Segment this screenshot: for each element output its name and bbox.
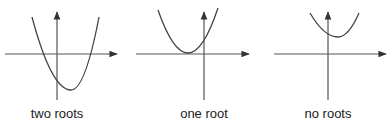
parabola-curve [310,13,359,37]
label-one-root: one root [180,106,228,121]
label-two-roots: two roots [31,106,84,121]
panel-one-root [136,8,249,100]
parabola-curve [158,8,218,53]
panel-no-roots [274,12,386,100]
panel-two-roots [5,12,117,100]
label-no-roots: no roots [305,106,352,121]
